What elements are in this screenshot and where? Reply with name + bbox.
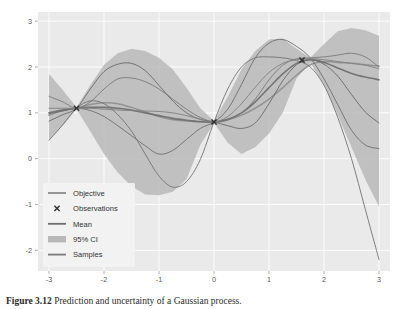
- caption-number: Figure 3.12: [6, 296, 52, 306]
- x-axis-tick-label: 2: [322, 275, 326, 284]
- x-axis-tick-label: -1: [156, 275, 162, 284]
- y-axis-tick-label: 2: [28, 63, 32, 72]
- legend-band-swatch: [48, 236, 66, 242]
- x-axis-tick-label: -3: [46, 275, 52, 284]
- figure-container: -3-2-10123-2-10123ObjectiveObservationsM…: [0, 0, 403, 309]
- x-axis-tick-label: 3: [377, 275, 381, 284]
- gaussian-process-chart: -3-2-10123-2-10123ObjectiveObservationsM…: [0, 0, 403, 309]
- plot-area: -3-2-10123-2-10123ObjectiveObservationsM…: [26, 12, 390, 284]
- caption-text: Prediction and uncertainty of a Gaussian…: [54, 296, 242, 306]
- y-axis-tick-label: 1: [28, 108, 32, 117]
- y-axis-tick-label: 0: [28, 154, 32, 163]
- legend-label: Objective: [73, 189, 105, 198]
- y-axis-tick-label: -2: [26, 246, 32, 255]
- x-axis-tick-label: 1: [267, 275, 271, 284]
- chart-legend: ObjectiveObservationsMean95% CISamples: [43, 183, 135, 267]
- y-axis-tick-label: -1: [26, 200, 32, 209]
- figure-caption: Figure 3.12 Prediction and uncertainty o…: [6, 296, 401, 306]
- legend-label: Observations: [73, 204, 118, 213]
- y-axis-tick-label: 3: [28, 17, 32, 26]
- x-axis-tick-label: -2: [101, 275, 107, 284]
- legend-label: 95% CI: [73, 235, 98, 244]
- x-axis-tick-label: 0: [212, 275, 216, 284]
- legend-label: Samples: [73, 250, 103, 259]
- legend-label: Mean: [73, 220, 92, 229]
